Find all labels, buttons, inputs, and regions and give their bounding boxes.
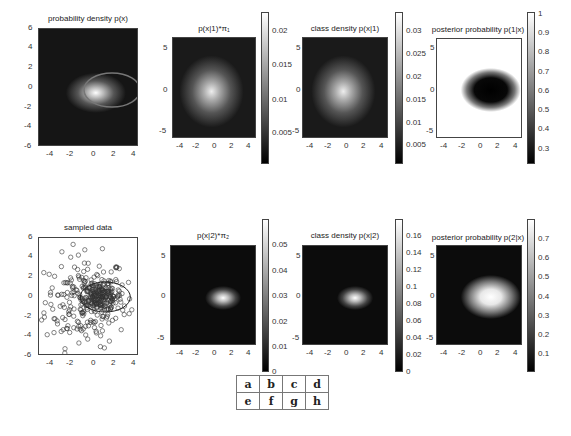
xtick: 2 [361, 348, 365, 357]
colorbar-tick: 0.04 [406, 333, 422, 342]
xtick: -2 [66, 358, 73, 367]
ytick: 0 [28, 291, 32, 300]
panel-f-title: p(x|2)*π₂ [170, 231, 256, 240]
ytick: -5 [426, 333, 433, 342]
xtick: -2 [458, 141, 465, 150]
colorbar-tick: 0.8 [538, 47, 549, 56]
xtick: 4 [131, 149, 135, 158]
xtick: -4 [46, 149, 53, 158]
colorbar-tick: 0.04 [272, 266, 288, 275]
colorbar-tick: 0.12 [406, 265, 422, 274]
legend-cell: g [283, 393, 306, 410]
colorbar-tick: 0.02 [406, 350, 422, 359]
ytick: 5 [430, 43, 434, 52]
xtick: 4 [379, 141, 383, 150]
xtick: 4 [131, 358, 135, 367]
ytick: 5 [161, 251, 165, 260]
ytick: 4 [28, 42, 32, 51]
xtick: 0 [212, 141, 216, 150]
panel-b-heatmap [172, 37, 256, 138]
xtick: 4 [246, 348, 250, 357]
panel-g-heatmap [302, 245, 388, 345]
panel-h-heatmap [436, 245, 522, 345]
colorbar-tick: 0.2 [538, 330, 549, 339]
colorbar-tick: 0.4 [538, 292, 549, 301]
colorbar-tick: 0.015 [406, 95, 426, 104]
colorbar-tick: 0.03 [272, 291, 288, 300]
xtick: 4 [513, 348, 517, 357]
legend-cell: c [283, 376, 306, 393]
xtick: -4 [440, 348, 447, 357]
colorbar-tick: 0.02 [272, 317, 288, 326]
colorbar-tick: 0.3 [538, 311, 549, 320]
xtick: 0 [478, 348, 482, 357]
ytick: -5 [159, 126, 166, 135]
ytick: 5 [163, 43, 167, 52]
panel-d-title: posterior probability p(1|x) [428, 25, 528, 34]
xtick: -2 [192, 141, 199, 150]
colorbar-tick: 0.03 [406, 26, 422, 35]
ytick: -5 [292, 126, 299, 135]
ytick: 0 [161, 291, 165, 300]
ytick: -2 [24, 102, 31, 111]
colorbar-tick: 0.06 [406, 316, 422, 325]
ytick: 0 [296, 291, 300, 300]
xtick: 0 [344, 141, 348, 150]
colorbar-tick: 0.05 [272, 240, 288, 249]
panel-a-heatmap [38, 28, 138, 146]
xtick: 2 [495, 348, 499, 357]
ytick: 5 [430, 251, 434, 260]
xtick: 0 [212, 348, 216, 357]
xtick: 2 [111, 358, 115, 367]
colorbar-tick: 0.16 [406, 231, 422, 240]
xtick: -4 [176, 348, 183, 357]
xtick: 2 [361, 141, 365, 150]
xtick: -4 [176, 141, 183, 150]
xtick: 2 [229, 348, 233, 357]
colorbar-tick: 0.015 [272, 60, 292, 69]
colorbar-tick: 1 [538, 9, 542, 18]
colorbar-tick: 0.02 [406, 72, 422, 81]
colorbar-tick: 0.6 [538, 253, 549, 262]
panel-g-title: class density p(x|2) [300, 231, 390, 240]
ytick: -6 [24, 141, 31, 150]
xtick: 4 [379, 348, 383, 357]
colorbar-tick: 0.6 [538, 86, 549, 95]
colorbar-tick: 0.08 [406, 299, 422, 308]
colorbar-tick: 0.1 [538, 349, 549, 358]
colorbar-tick: 0.01 [272, 342, 288, 351]
ytick: 0 [163, 85, 167, 94]
colorbar-tick: 0 [406, 367, 410, 376]
colorbar-tick: 0.01 [406, 118, 422, 127]
panel-legend-table: a b c d e f g h [236, 375, 329, 410]
ytick: 5 [296, 251, 300, 260]
panel-h-title: posterior probability p(2|x) [428, 233, 528, 242]
xtick: -2 [324, 348, 331, 357]
colorbar-tick: 0.14 [406, 248, 422, 257]
xtick: -4 [46, 358, 53, 367]
legend-row: a b c d [237, 376, 329, 393]
ytick: 0 [296, 85, 300, 94]
colorbar-tick: 0.4 [538, 124, 549, 133]
colorbar-d [527, 12, 535, 164]
colorbar-tick: 0.02 [272, 26, 288, 35]
ytick: 6 [28, 23, 32, 32]
xtick: -2 [458, 348, 465, 357]
colorbar-b [261, 12, 269, 164]
colorbar-h [527, 219, 535, 372]
legend-cell: h [306, 393, 329, 410]
panel-b-title: p(x|1)*π₁ [172, 24, 256, 33]
ytick: 2 [28, 271, 32, 280]
legend-row: e f g h [237, 393, 329, 410]
xtick: -2 [66, 149, 73, 158]
ytick: 2 [28, 62, 32, 71]
xtick: 0 [91, 358, 95, 367]
xtick: 0 [91, 149, 95, 158]
ytick: 4 [28, 251, 32, 260]
xtick: 4 [246, 141, 250, 150]
xtick: -2 [192, 348, 199, 357]
colorbar-tick: 0.5 [538, 105, 549, 114]
panel-e-scatter [38, 237, 138, 355]
xtick: 4 [513, 141, 517, 150]
ytick: -5 [157, 333, 164, 342]
